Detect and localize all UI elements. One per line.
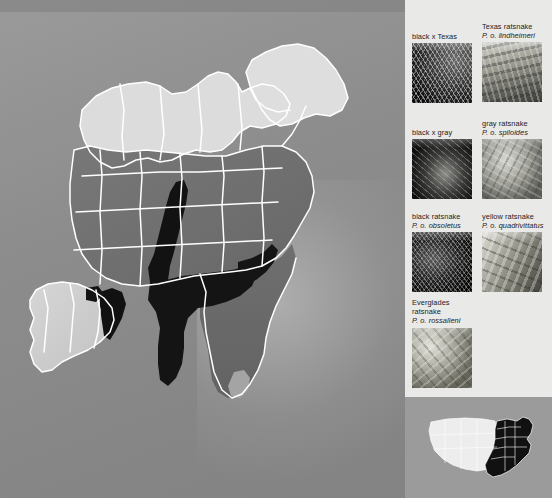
legend-title-line2: ratsnake	[412, 307, 441, 316]
legend-caption: black ratsnake P. o. obsoletus	[412, 212, 472, 230]
legend-title: yellow ratsnake	[482, 212, 534, 221]
legend-scientific-name: P. o. lindheimeri	[482, 31, 542, 40]
snake-photo-gray-ratsnake	[482, 139, 542, 199]
legend-item-everglades-ratsnake[interactable]: Everglades ratsnake P. o. rossalleni	[412, 298, 472, 388]
snake-photo-everglades-ratsnake	[412, 328, 472, 388]
snake-photo-black-ratsnake	[412, 232, 472, 292]
snake-photo-yellow-ratsnake	[482, 232, 542, 292]
legend-scientific-name: P. o. rossalleni	[412, 316, 472, 325]
legend-item-texas-ratsnake[interactable]: Texas ratsnake P. o. lindheimeri	[482, 22, 542, 102]
main-range-map	[0, 0, 410, 498]
figure-root: black x Texas Texas ratsnake P. o. lindh…	[0, 0, 552, 498]
snake-photo-black-x-texas	[412, 43, 472, 103]
legend-caption: Texas ratsnake P. o. lindheimeri	[482, 22, 542, 40]
legend-title: black x Texas	[412, 32, 457, 41]
photo-sheen	[412, 328, 472, 337]
photo-sheen	[482, 139, 542, 148]
legend-item-yellow-ratsnake[interactable]: yellow ratsnake P. o. quadrivittatus	[482, 212, 543, 292]
photo-sheen	[482, 42, 542, 51]
legend-item-black-x-gray[interactable]: black x gray	[412, 128, 472, 199]
snake-photo-black-x-gray	[412, 139, 472, 199]
legend-scientific-name: P. o. quadrivittatus	[482, 221, 543, 230]
legend-title: black x gray	[412, 128, 452, 137]
map-landmass	[30, 44, 348, 398]
locator-svg	[405, 397, 552, 498]
legend-scientific-name: P. o. obsoletus	[412, 221, 472, 230]
legend-item-gray-ratsnake[interactable]: gray ratsnake P. o. spiloides	[482, 119, 542, 199]
united-states-locator-inset	[405, 397, 552, 498]
legend-title: gray ratsnake	[482, 119, 528, 128]
legend-caption: yellow ratsnake P. o. quadrivittatus	[482, 212, 543, 230]
legend-caption: gray ratsnake P. o. spiloides	[482, 119, 542, 137]
legend-title: Texas ratsnake	[482, 22, 533, 31]
range-map-svg	[0, 0, 410, 498]
legend-item-black-x-texas[interactable]: black x Texas	[412, 32, 472, 103]
photo-sheen	[482, 232, 542, 241]
photo-sheen	[412, 232, 472, 241]
legend-scientific-name: P. o. spiloides	[482, 128, 542, 137]
legend-caption: Everglades ratsnake P. o. rossalleni	[412, 298, 472, 326]
snake-photo-texas-ratsnake	[482, 42, 542, 102]
photo-sheen	[412, 43, 472, 52]
legend-title-line1: Everglades	[412, 298, 450, 307]
legend-caption: black x Texas	[412, 32, 472, 41]
photo-sheen	[412, 139, 472, 148]
legend-item-black-ratsnake[interactable]: black ratsnake P. o. obsoletus	[412, 212, 472, 292]
legend-title: black ratsnake	[412, 212, 461, 221]
legend-caption: black x gray	[412, 128, 472, 137]
